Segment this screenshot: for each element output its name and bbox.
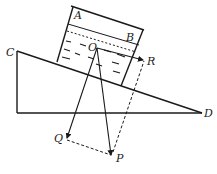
force-vectors [67, 48, 143, 155]
label-c: C [6, 46, 15, 59]
vector-oq [67, 48, 97, 138]
label-p: P [115, 152, 124, 165]
force-diagram: A B C D O P Q R [0, 0, 217, 174]
incline-wedge [17, 51, 202, 113]
container-left-wall [57, 7, 73, 62]
dashed-qp [67, 140, 111, 155]
label-a: A [73, 9, 82, 22]
incline-slope [17, 51, 202, 113]
label-r: R [146, 55, 155, 68]
vector-op [97, 48, 111, 155]
vector-or [97, 48, 143, 60]
label-b: B [125, 31, 134, 44]
label-o: O [88, 41, 97, 54]
construction-lines [67, 61, 144, 155]
label-q: Q [54, 132, 63, 145]
dashed-pr [113, 61, 144, 152]
label-d: D [203, 107, 213, 120]
